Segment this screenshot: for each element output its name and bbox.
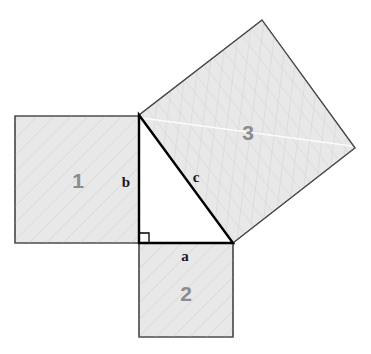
side-label-a: a (181, 248, 189, 264)
square-1-number-label: 1 (72, 169, 84, 192)
square-3-number-label: 3 (242, 121, 254, 144)
pythagorean-theorem-figure: 1 2 3 a b c (0, 0, 371, 354)
pythagoras-diagram-canvas: 1 2 3 a b c (0, 0, 371, 354)
side-label-b: b (122, 174, 130, 190)
square-2-number-label: 2 (180, 282, 192, 305)
side-label-c: c (193, 169, 200, 185)
square-1-group: 1 (15, 116, 139, 243)
